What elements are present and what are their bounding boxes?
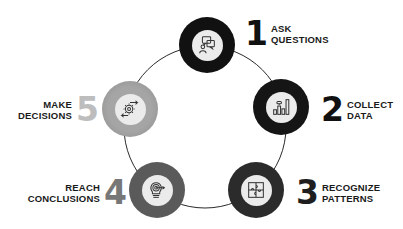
step-5-circle <box>102 81 158 137</box>
step-2-number: 2 <box>321 93 344 126</box>
step-4-circle <box>129 162 185 218</box>
step-3-number: 3 <box>296 176 319 209</box>
step-5-title-line2: DECISIONS <box>18 110 72 121</box>
step-1-circle <box>179 17 235 73</box>
step-4-inner <box>142 175 173 206</box>
step-5-title-line1: MAKE <box>43 99 72 110</box>
step-4-title-line1: REACH <box>65 182 100 193</box>
puzzle-icon <box>245 179 267 201</box>
step-4-title-line2: CONCLUSIONS <box>28 193 100 204</box>
step-2-inner <box>266 92 297 123</box>
gear-arrows-icon <box>119 98 141 120</box>
step-3-circle <box>228 162 284 218</box>
step-3-title-line2: PATTERNS <box>322 193 380 204</box>
bar-chart-icon <box>270 96 292 118</box>
step-2-title-line2: DATA <box>347 110 393 121</box>
step-3-label: 3 RECOGNIZE PATTERNS <box>296 176 380 209</box>
step-1-label: 1 ASK QUESTIONS <box>245 17 329 50</box>
step-2-label: 2 COLLECT DATA <box>321 93 393 126</box>
data-cycle-diagram: 1 ASK QUESTIONS 2 COLLECT DATA <box>0 0 403 229</box>
lightbulb-target-icon <box>146 179 168 201</box>
step-4-number: 4 <box>104 176 127 209</box>
step-5-label: MAKE DECISIONS 5 <box>18 93 99 126</box>
step-1-title-line1: ASK <box>271 23 329 34</box>
step-1-number: 1 <box>245 17 268 50</box>
step-1-inner <box>192 30 223 61</box>
step-2-circle <box>253 79 309 135</box>
step-5-inner <box>115 94 146 125</box>
step-3-inner <box>241 175 272 206</box>
step-3-title-line1: RECOGNIZE <box>322 182 380 193</box>
step-4-label: REACH CONCLUSIONS 4 <box>28 176 127 209</box>
step-2-title-line1: COLLECT <box>347 99 393 110</box>
chat-bubbles-person-icon <box>196 34 218 56</box>
step-1-title-line2: QUESTIONS <box>271 34 329 45</box>
step-5-number: 5 <box>76 93 99 126</box>
